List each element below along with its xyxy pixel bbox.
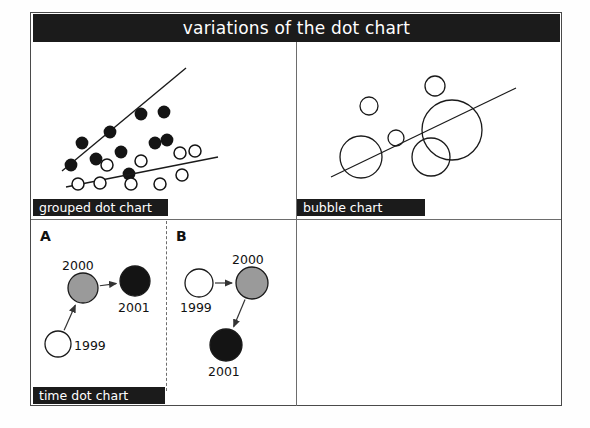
divider-vertical-main [296, 42, 297, 406]
year-label-1999: 1999 [74, 338, 106, 353]
poster-title-bar: variations of the dot chart [33, 14, 560, 42]
panel-label-grouped-dot-chart: grouped dot chart [33, 199, 168, 216]
panel-label-bubble-chart: bubble chart [297, 199, 425, 216]
page-title: variations of the dot chart [183, 18, 410, 38]
divider-dashed-a-b [166, 221, 167, 391]
year-label-2000: 2000 [62, 258, 94, 273]
poster-root: variations of the dot chart grouped dot … [0, 0, 590, 428]
year-label-2001: 2001 [118, 300, 150, 315]
panel-letter-b: B [176, 228, 187, 244]
divider-horizontal-main [31, 219, 561, 220]
year-label-2000: 2000 [232, 252, 264, 267]
year-label-2001: 2001 [208, 364, 240, 379]
panel-label-time-dot-chart: time dot chart [33, 387, 165, 404]
panel-letter-a: A [40, 228, 51, 244]
year-label-1999: 1999 [180, 300, 212, 315]
